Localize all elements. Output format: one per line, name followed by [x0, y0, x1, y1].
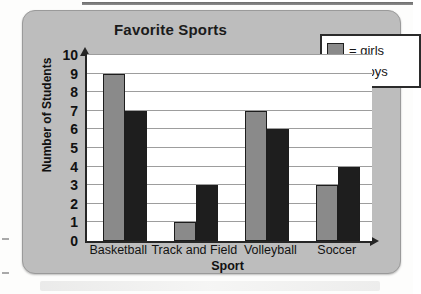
page-background-text-smudge — [40, 281, 380, 291]
bar-girls — [174, 222, 196, 241]
plot-area — [85, 55, 372, 243]
chart-card: Favorite Sports = girls = boys 109876543… — [22, 10, 401, 274]
y-axis-tick-label: 8 — [70, 85, 78, 99]
bar-girls — [103, 74, 125, 241]
y-axis-tick-label: 9 — [70, 67, 78, 81]
y-axis-tick-label: 6 — [70, 122, 78, 136]
page-margin-mark — [2, 238, 9, 240]
y-axis-tick-label: 7 — [70, 104, 78, 118]
x-axis-tick-label: Basketball — [85, 243, 151, 257]
bar-groups — [87, 55, 372, 241]
bar-boys — [125, 111, 147, 241]
page-margin-mark — [2, 272, 9, 274]
chart-title: Favorite Sports — [23, 21, 318, 38]
y-axis-title: Number of Students — [40, 45, 54, 185]
bar-boys — [196, 185, 218, 241]
x-axis-tick-label: Volleyball — [237, 243, 303, 257]
y-axis-tick-label: 0 — [70, 234, 78, 248]
x-axis-tick-labels: BasketballTrack and FieldVolleyballSocce… — [85, 243, 370, 257]
page-top-edge-band — [82, 0, 413, 5]
x-axis-tick-label: Track and Field — [151, 243, 237, 257]
y-axis-tick-label: 3 — [70, 178, 78, 192]
x-axis-tick-label: Soccer — [304, 243, 370, 257]
bar-group — [230, 55, 301, 241]
bar-group — [158, 55, 229, 241]
y-axis-tick-label: 1 — [70, 215, 78, 229]
bar-boys — [338, 167, 360, 241]
y-axis-tick-label: 4 — [70, 160, 78, 174]
bar-group — [87, 55, 158, 241]
bar-girls — [245, 111, 267, 241]
bar-girls — [316, 185, 338, 241]
y-axis-tick-label: 2 — [70, 197, 78, 211]
y-axis-tick-labels: 109876543210 — [53, 47, 78, 245]
bar-group — [301, 55, 372, 241]
x-axis-title: Sport — [85, 259, 370, 273]
bar-boys — [267, 129, 289, 241]
y-axis-tick-label: 10 — [62, 48, 78, 62]
y-axis-tick-label: 5 — [70, 141, 78, 155]
